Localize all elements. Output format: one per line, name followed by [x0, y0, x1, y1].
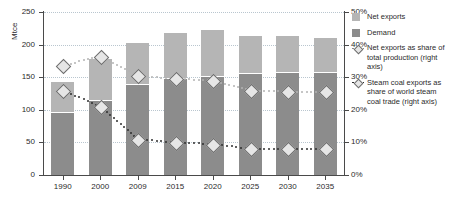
line-dot: [306, 91, 308, 93]
net-exports-swatch-icon: [352, 13, 360, 21]
line-dot: [123, 126, 125, 128]
y2-axis-line: [344, 11, 345, 176]
x-axis-tick: [100, 176, 101, 180]
line-dot: [226, 145, 228, 147]
line-dot: [116, 120, 118, 122]
x-axis-label-2030: 2030: [268, 182, 308, 191]
line-dot: [193, 142, 195, 144]
line-dot: [273, 90, 275, 92]
line-dot: [156, 140, 158, 142]
x-axis-tick: [175, 176, 176, 180]
line-dot: [273, 148, 275, 150]
chart-legend: Net exports Demand Net exports as share …: [352, 12, 451, 112]
x-axis-tick: [63, 176, 64, 180]
bar-segment-demand: [126, 85, 149, 175]
line-dot: [127, 129, 129, 131]
legend-label: Net exports: [367, 12, 405, 21]
line-dot: [70, 63, 72, 65]
line-dot: [224, 83, 226, 85]
y-axis-tick: [39, 110, 43, 111]
x-axis-tick: [213, 176, 214, 180]
bar-segment-net-exports: [164, 33, 187, 78]
bar-2015: [164, 33, 187, 175]
y2-axis-tick: [345, 175, 349, 176]
line-dot: [151, 76, 153, 78]
bar-segment-net-exports: [276, 36, 299, 72]
y-axis-tick-label: 150: [5, 72, 35, 81]
legend-item-steam-coal-share: Steam coal exports as share of world ste…: [352, 78, 451, 107]
line-dot: [74, 95, 76, 97]
x-axis-label-2015: 2015: [155, 182, 195, 191]
line-dot: [198, 79, 200, 81]
y2-axis-tick: [345, 142, 349, 143]
line-dot: [268, 148, 270, 150]
x-axis-label-1990: 1990: [43, 182, 83, 191]
x-axis-tick: [138, 176, 139, 180]
x-axis-tick: [325, 176, 326, 180]
line-dot: [233, 85, 235, 87]
bar-2000: [89, 59, 112, 175]
y-axis-tick-label: 0: [5, 170, 35, 179]
bar-segment-net-exports: [314, 38, 337, 72]
y-axis-tick: [39, 77, 43, 78]
line-dot: [310, 91, 312, 93]
line-dot: [235, 146, 237, 148]
bar-segment-demand: [201, 77, 224, 175]
x-axis-tick: [250, 176, 251, 180]
plot-area: [44, 12, 344, 175]
legend-label: Steam coal exports as share of world ste…: [367, 78, 441, 106]
y-axis-tick-label: 200: [5, 40, 35, 49]
y2-axis-tick: [345, 77, 349, 78]
line-dot: [315, 91, 317, 93]
legend-label: Demand: [367, 28, 395, 37]
line-dot: [301, 148, 303, 150]
line-dot: [263, 148, 265, 150]
y-axis-title: Mtce: [10, 23, 19, 40]
line-dot: [263, 90, 265, 92]
y-axis-tick-label: 250: [5, 7, 35, 16]
line-dot: [160, 140, 162, 142]
line-dot: [228, 84, 230, 86]
line-dot: [83, 59, 85, 61]
data-point-marker-1990: [56, 59, 72, 75]
line-dot: [91, 102, 93, 104]
bar-segment-net-exports: [89, 59, 112, 100]
chart-container: Mtce 250200150100500 50%40%30%20%10%0% 1…: [0, 0, 451, 204]
bar-2009: [126, 43, 149, 175]
line-dot: [116, 64, 118, 66]
line-dot: [241, 87, 243, 89]
x-axis-line: [43, 175, 345, 176]
bar-segment-net-exports: [239, 36, 262, 73]
legend-item-net-exports: Net exports: [352, 12, 451, 22]
line-dot: [198, 142, 200, 144]
legend-item-net-exports-share: Net exports as share of total production…: [352, 43, 451, 72]
line-dot: [193, 79, 195, 81]
y-axis-tick: [39, 45, 43, 46]
y-axis-tick: [39, 175, 43, 176]
x-axis-label-2020: 2020: [193, 182, 233, 191]
legend-item-demand: Demand: [352, 28, 451, 38]
x-axis-label-2025: 2025: [230, 182, 270, 191]
line-dot: [78, 60, 80, 62]
line-dot: [315, 148, 317, 150]
line-dot: [160, 77, 162, 79]
dotted-line-marker-icon: [352, 79, 364, 87]
line-dot: [151, 139, 153, 141]
y2-axis-tick: [345, 110, 349, 111]
line-dot: [120, 123, 122, 125]
line-dot: [74, 62, 76, 64]
y2-axis-tick-label: 0%: [351, 170, 385, 179]
bar-segment-demand: [51, 113, 74, 175]
y2-axis-tick-label: 10%: [351, 137, 385, 146]
line-dot: [83, 98, 85, 100]
y-axis-tick: [39, 142, 43, 143]
line-dot: [188, 142, 190, 144]
x-axis-label-2000: 2000: [80, 182, 120, 191]
dotted-line-marker-icon: [352, 44, 364, 52]
diamond-marker-icon: [354, 79, 364, 89]
diamond-marker-icon: [354, 44, 364, 54]
line-dot: [165, 141, 167, 143]
x-axis-label-2035: 2035: [305, 182, 345, 191]
x-axis-label-2009: 2009: [118, 182, 158, 191]
line-dot: [310, 148, 312, 150]
